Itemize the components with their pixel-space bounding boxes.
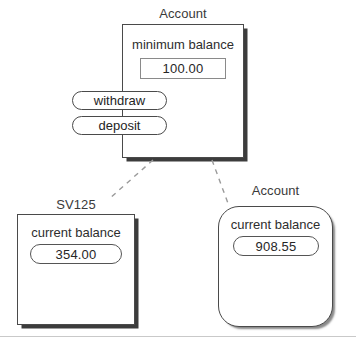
child-left-attribute-label: current balance — [17, 225, 135, 240]
child-left-node-title: SV125 — [17, 197, 135, 212]
operation-withdraw[interactable]: withdraw — [72, 91, 167, 110]
diagram-canvas: Account minimum balance 100.00 withdraw … — [0, 0, 356, 344]
child-right-current-balance-value[interactable]: 908.55 — [233, 236, 319, 256]
footer-divider — [0, 336, 356, 337]
parent-attribute-label: minimum balance — [122, 37, 244, 52]
operation-deposit[interactable]: deposit — [72, 116, 167, 135]
child-right-node-title: Account — [218, 183, 333, 198]
child-right-attribute-label: current balance — [218, 217, 333, 232]
parent-node-title: Account — [122, 6, 244, 21]
connector-to-sv125 — [109, 160, 153, 199]
parent-minimum-balance-value[interactable]: 100.00 — [140, 58, 226, 79]
child-left-current-balance-value[interactable]: 354.00 — [30, 244, 122, 264]
